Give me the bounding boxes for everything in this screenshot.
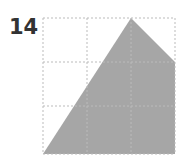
shaded-shape [43, 18, 175, 154]
grid-figure [0, 0, 188, 162]
